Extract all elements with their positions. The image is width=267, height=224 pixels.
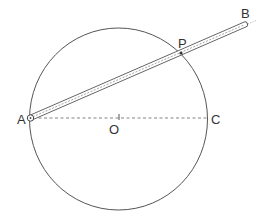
point-p — [179, 51, 182, 54]
rod-ab — [29, 21, 248, 120]
pivot-a-dot — [30, 117, 32, 119]
geometry-diagram: A O C P B — [0, 0, 267, 224]
label-a: A — [17, 112, 26, 127]
label-c: C — [211, 112, 220, 127]
rod-extension — [248, 21, 256, 25]
label-o: O — [109, 122, 119, 137]
diagram-canvas: A O C P B — [0, 0, 267, 224]
label-b: B — [241, 6, 250, 21]
label-p: P — [178, 36, 187, 51]
